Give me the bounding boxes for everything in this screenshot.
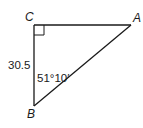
vertex-label-A: A <box>132 11 141 25</box>
right-angle-marker <box>34 25 44 35</box>
side-length-label: 30.5 <box>8 59 30 71</box>
vertex-label-B: B <box>27 107 35 121</box>
triangle <box>34 25 131 106</box>
triangle-diagram: C A B 30.5 51°10′ <box>0 0 143 128</box>
angle-measure-label: 51°10′ <box>37 72 69 84</box>
vertex-label-C: C <box>25 10 34 24</box>
hypotenuse-AB <box>34 25 131 106</box>
